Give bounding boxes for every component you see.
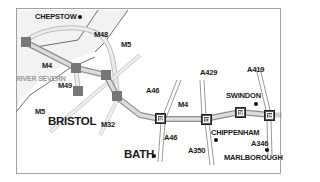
road-label-m4-east: M4 xyxy=(178,100,188,109)
town-label-chepstow: CHEPSTOW xyxy=(35,12,77,21)
road-label-a46-north: A46 xyxy=(146,86,159,95)
road-label-a419: A419 xyxy=(247,65,264,74)
town-dot-chippenham xyxy=(214,138,218,142)
road-label-a46-south: A46 xyxy=(164,133,177,142)
town-dot-bath xyxy=(152,154,156,158)
road-label-m49: M49 xyxy=(58,81,72,90)
town-label-swindon: SWINDON xyxy=(226,91,261,100)
town-dot-swindon xyxy=(254,102,258,106)
a419 xyxy=(256,68,270,110)
junction-15-icon: 15 xyxy=(264,110,275,121)
road-label-m5-north: M5 xyxy=(121,40,131,49)
town-dot-marlborough xyxy=(265,148,269,152)
town-label-marlborough: MARLBOROUGH xyxy=(224,153,283,162)
road-label-a429: A429 xyxy=(200,68,217,77)
town-label-chippenham: CHIPPENHAM xyxy=(211,128,259,137)
a429 xyxy=(200,80,206,118)
interchange-node-m5-m4 xyxy=(101,70,111,80)
road-label-a346: A346 xyxy=(251,139,268,148)
road-label-a350: A350 xyxy=(188,146,205,155)
interchange-node-m4-west xyxy=(21,37,31,47)
interchange-node-m49-south xyxy=(73,86,83,96)
junction-18-icon: 18 xyxy=(155,113,166,124)
road-label-m48: M48 xyxy=(94,30,108,39)
town-label-bristol: BRISTOL xyxy=(48,115,96,127)
town-dot-chepstow xyxy=(78,15,82,19)
interchange-node-m32 xyxy=(112,91,122,101)
junction-16-icon: 16 xyxy=(235,107,246,118)
junction-17-icon: 17 xyxy=(201,114,212,125)
road-label-m4-west: M4 xyxy=(42,61,52,70)
road-label-m5-south: M5 xyxy=(35,107,45,116)
road-label-m32: M32 xyxy=(101,120,115,129)
town-label-bath: BATH xyxy=(124,148,154,160)
a46-south xyxy=(158,122,165,162)
interchange-node-m49 xyxy=(71,63,81,73)
